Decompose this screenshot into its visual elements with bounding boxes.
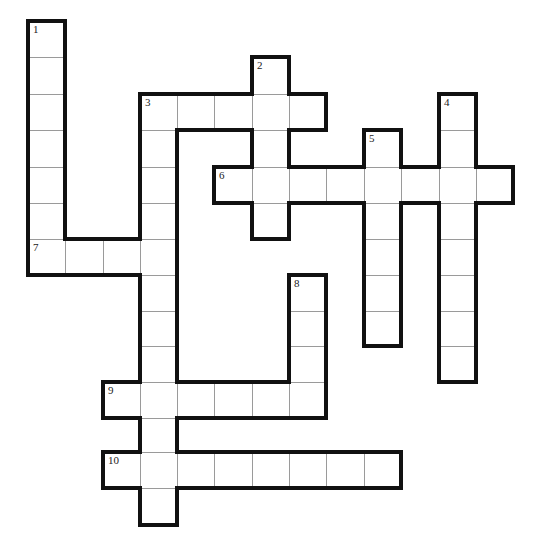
grid-cell[interactable] [252,94,290,131]
clue-number: 2 [257,60,263,71]
grid-cell[interactable] [439,239,477,276]
grid-cell[interactable] [439,167,477,204]
grid-cell[interactable] [28,94,66,131]
grid-cell[interactable] [439,311,477,347]
grid-cell[interactable] [364,239,402,276]
grid-cell[interactable] [439,130,477,168]
grid-cell[interactable] [252,130,290,168]
grid-cell[interactable] [364,275,402,312]
clue-number: 6 [219,170,225,181]
grid-cell[interactable]: 7 [28,239,66,276]
grid-cell[interactable]: 10 [103,452,141,489]
grid-cell[interactable] [439,346,477,383]
grid-cell[interactable] [289,311,327,347]
clue-number: 10 [108,455,119,466]
grid-cell[interactable] [177,382,215,419]
grid-cell[interactable]: 6 [214,167,253,204]
grid-cell[interactable] [140,239,178,276]
grid-cell[interactable] [439,203,477,240]
grid-cell[interactable] [289,94,327,131]
grid-cell[interactable]: 1 [28,21,66,58]
grid-cell[interactable] [140,311,178,347]
grid-cell[interactable] [289,382,327,419]
grid-cell[interactable] [214,452,253,489]
grid-cell[interactable] [289,346,327,383]
grid-cell[interactable] [401,167,440,204]
grid-cell[interactable] [140,275,178,312]
grid-cell[interactable]: 8 [289,275,327,312]
clue-number: 9 [108,385,114,396]
grid-cell[interactable]: 9 [103,382,141,419]
grid-cell[interactable]: 4 [439,94,477,131]
crossword-grid: 17234568910 [0,0,540,546]
grid-cell[interactable] [289,452,327,489]
grid-cell[interactable] [364,167,402,204]
grid-cell[interactable] [103,239,141,276]
grid-cell[interactable] [252,203,290,240]
grid-cell[interactable] [476,167,514,204]
grid-cell[interactable] [140,346,178,383]
grid-cell[interactable] [140,488,178,526]
grid-cell[interactable] [28,130,66,168]
grid-cell[interactable]: 2 [252,57,290,95]
grid-cell[interactable] [140,382,178,419]
grid-cell[interactable] [140,167,178,204]
grid-cell[interactable] [28,57,66,95]
grid-cell[interactable] [140,452,178,489]
grid-cell[interactable] [326,452,365,489]
clue-number: 7 [33,242,39,253]
grid-cell[interactable] [28,167,66,204]
clue-number: 5 [369,133,375,144]
grid-cell[interactable] [140,130,178,168]
grid-cell[interactable] [177,452,215,489]
grid-cell[interactable]: 3 [140,94,178,131]
grid-cell[interactable] [364,452,402,489]
grid-cell[interactable] [65,239,104,276]
grid-cell[interactable] [140,203,178,240]
grid-cell[interactable] [177,94,215,131]
grid-cell[interactable] [214,94,253,131]
clue-number: 4 [444,97,450,108]
grid-cell[interactable] [326,167,365,204]
grid-cell[interactable] [252,167,290,204]
grid-cell[interactable] [214,382,253,419]
grid-cell[interactable] [28,203,66,240]
grid-cell[interactable]: 5 [364,130,402,168]
grid-cell[interactable] [140,418,178,453]
grid-cell[interactable] [289,167,327,204]
grid-cell[interactable] [252,452,290,489]
grid-cell[interactable] [252,382,290,419]
clue-number: 3 [145,97,151,108]
clue-number: 8 [294,278,300,289]
grid-cell[interactable] [439,275,477,312]
grid-cell[interactable] [364,203,402,240]
clue-number: 1 [33,24,39,35]
grid-cell[interactable] [364,311,402,347]
